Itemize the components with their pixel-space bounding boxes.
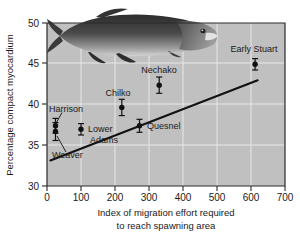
x-tick-600: 600 (243, 192, 260, 203)
label-lower: Lower (88, 124, 113, 134)
x-tick-300: 300 (141, 192, 158, 203)
label-early-stuart: Early Stuart (230, 44, 278, 54)
scatter-plot-svg: 0 100 200 300 400 500 600 700 30 35 40 4… (0, 0, 300, 236)
label-adams: Adams (90, 135, 119, 145)
label-harrison: Harrison (49, 104, 83, 114)
label-weaver: Weaver (52, 150, 83, 160)
y-tick-40: 40 (28, 99, 40, 110)
x-tick-700: 700 (277, 192, 294, 203)
y-tick-50: 50 (28, 18, 40, 29)
x-tick-500: 500 (209, 192, 226, 203)
x-tick-0: 0 (44, 192, 50, 203)
y-tick-35: 35 (28, 140, 40, 151)
x-tick-400: 400 (175, 192, 192, 203)
x-axis-title-line1: Index of migration effort required (97, 207, 234, 218)
y-tick-30: 30 (28, 181, 40, 192)
chart-figure: 0 100 200 300 400 500 600 700 30 35 40 4… (0, 0, 300, 236)
x-tick-100: 100 (73, 192, 90, 203)
y-axis-title: Percentage compact myocardium (4, 34, 15, 176)
x-axis-title-line2: to reach spawning area (117, 220, 216, 231)
label-nechako: Nechako (141, 65, 177, 75)
label-chilko: Chilko (105, 88, 130, 98)
y-tick-45: 45 (28, 58, 40, 69)
x-tick-200: 200 (107, 192, 124, 203)
label-quesnel: Quesnel (147, 121, 181, 131)
